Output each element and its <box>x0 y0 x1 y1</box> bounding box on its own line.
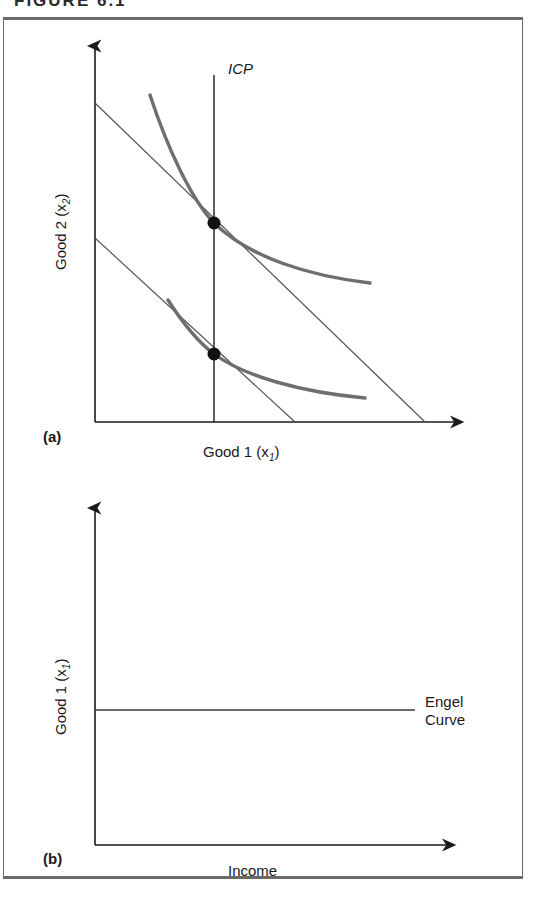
panel-b-y-axis-label-close: ) <box>52 659 69 664</box>
engel-curve-label-line1: Engel <box>425 693 465 711</box>
engel-curve-label-line2: Curve <box>425 711 465 729</box>
panel-a-x-axis-label-close: ) <box>274 443 279 460</box>
panel-b-tag: (b) <box>43 850 62 867</box>
panel-a-y-axis-label-main: Good 2 (x <box>52 204 69 270</box>
budget-line-low <box>95 238 295 422</box>
indifference-curve-low <box>168 300 365 398</box>
tangency-point-low <box>208 348 221 361</box>
panel-b-y-axis-label-main: Good 1 (x <box>52 669 69 735</box>
panel-b: Good 1 (x1) Income Engel Curve (b) <box>0 490 533 890</box>
panel-a: ICP Good 2 (x2) Good 1 (x1) (a) <box>0 0 533 490</box>
engel-curve-label: Engel Curve <box>425 693 465 728</box>
panel-a-y-axis-label-subscript: 2 <box>61 199 72 205</box>
panel-a-y-axis-label: Good 2 (x2) <box>52 194 72 270</box>
panel-a-y-axis-label-close: ) <box>52 194 69 199</box>
panel-a-x-axis-label-main: Good 1 (x <box>203 443 269 460</box>
tangency-point-high <box>208 217 221 230</box>
panel-b-y-axis-label: Good 1 (x1) <box>52 659 72 735</box>
panel-b-y-axis-label-subscript: 1 <box>61 664 72 670</box>
budget-line-high <box>95 103 425 422</box>
panel-b-x-axis-label: Income <box>228 862 277 879</box>
panel-b-graphic <box>0 490 533 890</box>
icp-label: ICP <box>228 60 253 77</box>
indifference-curve-high <box>150 95 370 283</box>
figure-container: FIGURE 6.1 <box>0 0 533 905</box>
panel-a-tag: (a) <box>43 428 61 445</box>
panel-a-x-axis-label: Good 1 (x1) <box>203 443 279 463</box>
panel-a-graphic <box>0 0 533 490</box>
